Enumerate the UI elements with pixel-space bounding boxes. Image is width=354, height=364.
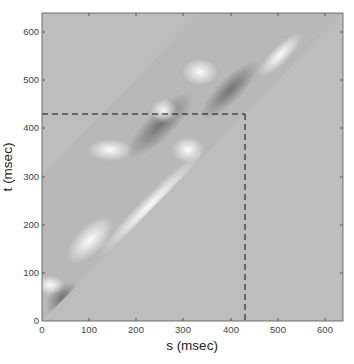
y-tick-label: 400 bbox=[23, 122, 39, 133]
x-tick-label: 200 bbox=[128, 324, 144, 335]
x-tick-label: 0 bbox=[39, 324, 44, 335]
x-tick-label: 400 bbox=[223, 324, 239, 335]
x-tick-label: 100 bbox=[81, 324, 97, 335]
y-tick-label: 600 bbox=[23, 26, 39, 37]
x-tick-label: 500 bbox=[270, 324, 286, 335]
y-tick-label: 200 bbox=[23, 219, 39, 230]
y-axis-label: t (msec) bbox=[0, 143, 15, 192]
y-tick-label: 0 bbox=[34, 315, 39, 326]
y-tick-label: 500 bbox=[23, 74, 39, 85]
heatmap-figure: 0 100 200 300 400 500 600 s (msec) 0 100… bbox=[0, 0, 354, 364]
x-axis-label: s (msec) bbox=[166, 338, 218, 353]
x-tick-label: 600 bbox=[317, 324, 333, 335]
x-tick-label: 300 bbox=[175, 324, 191, 335]
y-tick-label: 100 bbox=[23, 267, 39, 278]
y-tick-label: 300 bbox=[23, 171, 39, 182]
